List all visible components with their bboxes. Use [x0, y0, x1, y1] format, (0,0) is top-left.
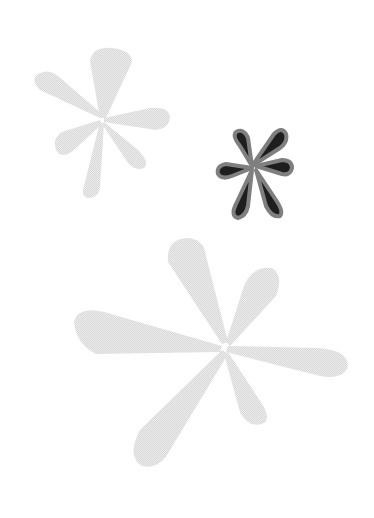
asterisk-canvas: [0, 0, 374, 518]
small-light-asterisk-icon: [34, 48, 170, 198]
large-light-asterisk-icon: [74, 238, 348, 467]
dark-asterisk-icon: [218, 130, 292, 218]
